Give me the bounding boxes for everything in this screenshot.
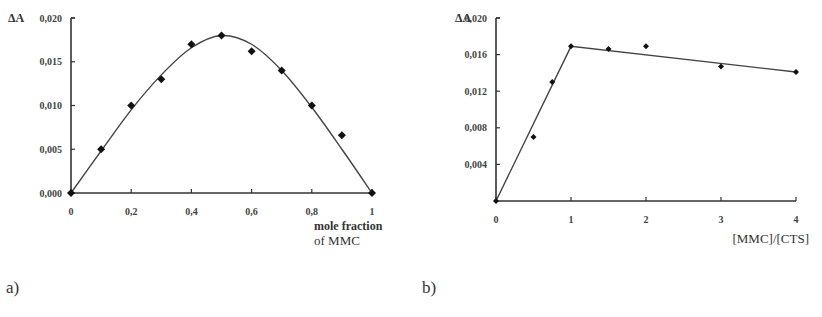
data-point-marker <box>248 47 256 55</box>
y-tick-label: 0,000 <box>40 188 63 199</box>
x-tick-label: 0 <box>69 206 74 217</box>
x-tick-label: 0,8 <box>306 206 319 217</box>
data-point-marker <box>568 43 574 49</box>
x-tick-label: 0,2 <box>125 206 138 217</box>
y-tick-label: 0,012 <box>465 86 488 97</box>
data-point-marker <box>368 189 376 197</box>
x-tick-label: 0 <box>494 214 499 225</box>
chart-b: 0,0040,0080,0120,0160,02001234ΔA[MMC]/[C… <box>455 11 809 246</box>
data-point-marker <box>718 63 724 69</box>
data-point-marker <box>531 134 537 140</box>
panel-label-b: b) <box>422 278 436 298</box>
data-point-marker <box>127 102 135 110</box>
y-axis-title: ΔA <box>455 11 472 25</box>
x-tick-label: 3 <box>719 214 724 225</box>
x-tick-label: 1 <box>370 206 375 217</box>
data-point-marker <box>157 75 165 83</box>
x-axis-title-line2: of MMC <box>314 233 360 248</box>
chart-a: 0,0000,0050,0100,0150,02000,20,40,60,81Δ… <box>8 11 383 248</box>
x-tick-label: 2 <box>644 214 649 225</box>
x-tick-label: 4 <box>794 214 799 225</box>
y-tick-label: 0,004 <box>465 159 488 170</box>
data-point-marker <box>643 43 649 49</box>
data-point-marker <box>493 198 499 204</box>
x-tick-label: 1 <box>569 214 574 225</box>
y-tick-label: 0,005 <box>40 144 63 155</box>
figure-canvas: 0,0000,0050,0100,0150,02000,20,40,60,81Δ… <box>0 0 822 317</box>
x-axis-title: [MMC]/[CTS] <box>732 231 809 246</box>
panel-label-a: a) <box>6 278 19 298</box>
y-tick-label: 0,008 <box>465 122 488 133</box>
data-point-marker <box>187 40 195 48</box>
y-tick-label: 0,015 <box>40 56 63 67</box>
fit-line <box>496 46 796 201</box>
fit-line <box>71 35 372 193</box>
y-tick-label: 0,020 <box>40 13 63 24</box>
data-point-marker <box>218 32 226 40</box>
x-axis-title-line1: mole fraction <box>314 219 383 233</box>
x-tick-label: 0,4 <box>185 206 198 217</box>
x-tick-label: 0,6 <box>245 206 258 217</box>
data-point-marker <box>338 131 346 139</box>
y-tick-label: 0,010 <box>40 100 63 111</box>
data-point-marker <box>793 69 799 75</box>
y-axis-title: ΔA <box>8 11 25 25</box>
y-tick-label: 0,016 <box>465 49 488 60</box>
